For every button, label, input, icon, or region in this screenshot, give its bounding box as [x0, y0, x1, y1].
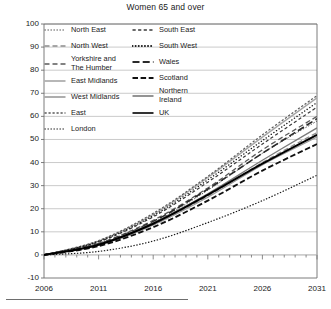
y-axis-tick-label: 60 [2, 111, 39, 120]
legend-item-label: South East [159, 26, 195, 34]
series-line [44, 121, 317, 255]
legend-item-label: East [71, 109, 86, 117]
y-axis-tick-label: 0 [2, 250, 39, 259]
legend-line-icon [132, 41, 154, 51]
x-axis-tick-label: 2011 [79, 284, 119, 293]
x-axis-tick-label: 2016 [133, 284, 173, 293]
chart-figure: Women 65 and over North EastNorth WestYo… [0, 0, 331, 309]
legend-item[interactable]: London [44, 121, 134, 137]
y-axis-tick-label: 10 [2, 227, 39, 236]
legend-item[interactable]: West Midlands [44, 89, 134, 105]
legend-item-label: Yorkshire and The Humber [71, 55, 116, 71]
legend-line-icon [132, 57, 154, 67]
chart-legend: North EastNorth WestYorkshire and The Hu… [44, 22, 219, 138]
y-axis-tick-label: 30 [2, 181, 39, 190]
legend-item-label: UK [159, 109, 169, 117]
legend-column-left: North EastNorth WestYorkshire and The Hu… [44, 22, 134, 137]
legend-line-icon [44, 76, 66, 86]
legend-item-label: West Midlands [71, 93, 119, 101]
legend-line-icon [44, 108, 66, 118]
legend-column-right: South EastSouth WestWalesScotlandNorther… [132, 22, 222, 121]
legend-line-icon [44, 92, 66, 102]
legend-item-label: Scotland [159, 74, 188, 82]
series-line [44, 144, 317, 255]
y-axis-tick-label: 80 [2, 65, 39, 74]
legend-item[interactable]: South East [132, 22, 222, 38]
legend-item-label: Northern Ireland [159, 87, 188, 103]
legend-item-label: South West [159, 42, 197, 50]
legend-item[interactable]: Northern Ireland [132, 86, 222, 105]
y-axis-tick-label: 50 [2, 134, 39, 143]
series-line [44, 133, 317, 255]
legend-item-label: London [71, 125, 96, 133]
x-axis-tick-label: 2031 [297, 284, 331, 293]
legend-item[interactable]: East [44, 105, 134, 121]
y-axis-tick-label: 100 [2, 19, 39, 28]
legend-item[interactable]: East Midlands [44, 73, 134, 89]
legend-line-icon [132, 73, 154, 83]
footer-divider [6, 299, 188, 300]
y-axis-tick-label: 20 [2, 204, 39, 213]
legend-line-icon [132, 25, 154, 35]
legend-item[interactable]: North West [44, 38, 134, 54]
legend-line-icon [44, 59, 66, 69]
legend-item[interactable]: Scotland [132, 70, 222, 86]
legend-item-label: North West [71, 42, 108, 50]
y-axis-tick-label: 90 [2, 42, 39, 51]
legend-item[interactable]: Wales [132, 54, 222, 70]
legend-line-icon [44, 25, 66, 35]
legend-item-label: East Midlands [71, 77, 117, 85]
y-axis-tick-label: 40 [2, 158, 39, 167]
legend-item[interactable]: South West [132, 38, 222, 54]
legend-item[interactable]: Yorkshire and The Humber [44, 54, 134, 73]
legend-item[interactable]: North East [44, 22, 134, 38]
series-line [44, 128, 317, 255]
x-axis-tick-label: 2021 [188, 284, 228, 293]
y-axis-tick-label: 70 [2, 88, 39, 97]
x-axis-tick-label: 2006 [24, 284, 64, 293]
x-axis-tick-label: 2026 [242, 284, 282, 293]
legend-line-icon [44, 41, 66, 51]
legend-item-label: North East [71, 26, 106, 34]
legend-item[interactable]: UK [132, 105, 222, 121]
legend-line-icon [132, 91, 154, 101]
legend-line-icon [44, 124, 66, 134]
y-axis-tick-label: -10 [2, 273, 39, 282]
legend-line-icon [132, 108, 154, 118]
legend-item-label: Wales [159, 58, 179, 66]
